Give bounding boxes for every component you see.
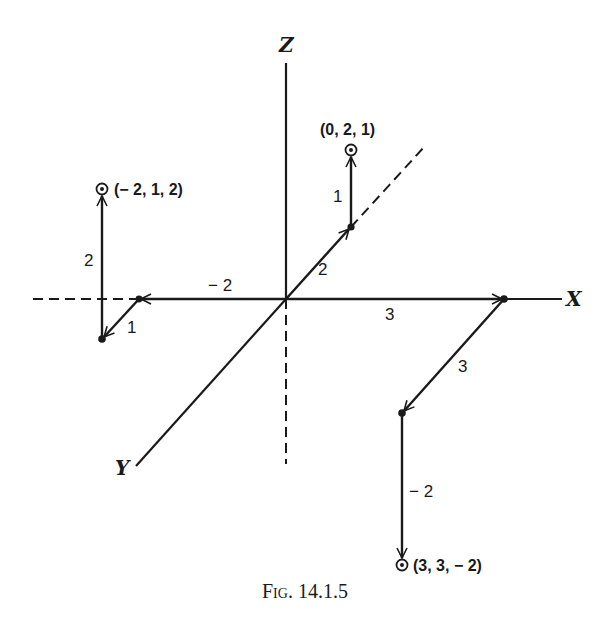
vector-y-3 [404,299,504,411]
vertex-dot [347,223,354,230]
segment-label-y-2: 2 [318,260,327,279]
segment-label-z-1: 1 [333,187,342,206]
point-label-0-2-1: (0, 2, 1) [320,121,375,138]
vertex-dot [136,296,143,303]
vertex-dot [500,295,508,303]
segment-label-y-3: 3 [458,357,467,376]
segment-label-x-3: 3 [385,305,394,324]
vertex-dot [398,409,406,417]
path-to-3-3-neg2 [286,295,508,570]
point-label-3-3-neg2: (3, 3, − 2) [413,557,482,574]
y-axis-label: Y [115,456,131,480]
segment-label-z-2: 2 [84,251,93,270]
x-axis-label: X [564,287,583,311]
vector-diagram: Z X Y 2 1 (0, 2, 1) − 2 1 2 (− 2, 1, 2) … [0,0,609,619]
segment-label-x-neg2: − 2 [208,276,232,295]
endpoint-center [349,148,353,152]
point-label-neg2-1-2: (− 2, 1, 2) [114,181,183,198]
endpoint-center [400,563,404,567]
z-axis-label: Z [278,33,295,57]
figure-caption: Fig. 14.1.5 [262,580,348,602]
segment-label-y-1: 1 [127,318,136,337]
endpoint-center [100,187,104,191]
axes [33,63,562,466]
y-axis-positive [136,299,286,466]
vertex-dot [98,335,106,343]
y-axis-negative-dashed [351,146,425,227]
path-to-neg2-1-2 [97,184,287,343]
segment-label-z-neg2: − 2 [409,482,433,501]
